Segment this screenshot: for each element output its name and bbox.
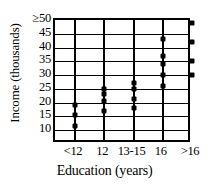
x-axis-tick-labels: <121213-1516>16 [0, 145, 209, 161]
data-point [102, 108, 107, 113]
data-point [102, 92, 107, 97]
y-axis-tick-label: 15 [39, 108, 51, 121]
data-point [102, 99, 107, 104]
data-point [160, 73, 165, 78]
data-point [190, 40, 195, 45]
y-axis-tick-label: 30 [39, 67, 51, 80]
y-axis-tick-label: 25 [39, 81, 51, 94]
data-point [131, 86, 136, 91]
y-axis-tick-label: 35 [39, 53, 51, 66]
data-point [190, 20, 195, 25]
y-axis-tick-label: ≥50 [33, 12, 51, 25]
x-axis-tick-label: <12 [64, 145, 83, 158]
y-axis-tick-label: 45 [39, 26, 51, 39]
data-point [73, 113, 78, 118]
x-axis-tick-label: 16 [155, 145, 167, 158]
data-point [131, 96, 136, 101]
x-axis-tick-label: 13-15 [118, 145, 146, 158]
data-point [73, 103, 78, 108]
data-point [190, 73, 195, 78]
data-point [160, 53, 165, 58]
y-axis-tick-label: 10 [39, 122, 51, 135]
x-axis-title: Education (years) [0, 163, 209, 179]
data-point [73, 124, 78, 129]
data-points [55, 20, 188, 140]
x-axis-tick-label: >16 [181, 145, 200, 158]
plot-area [53, 18, 190, 142]
data-point [131, 81, 136, 86]
data-point [160, 84, 165, 89]
y-axis-tick-label: 20 [39, 94, 51, 107]
data-point [160, 37, 165, 42]
x-axis-tick-label: 12 [96, 145, 108, 158]
data-point [190, 59, 195, 64]
scatter-chart: Income (thousands) 1015202530354045≥50 <… [0, 0, 209, 188]
y-axis-tick-label: 40 [39, 39, 51, 52]
data-point [160, 62, 165, 67]
data-point [131, 106, 136, 111]
data-point [102, 86, 107, 91]
